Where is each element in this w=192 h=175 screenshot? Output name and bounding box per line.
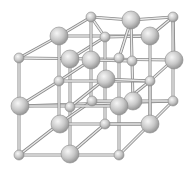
crystal-lattice-diagram — [0, 0, 192, 175]
small-ion-sphere — [114, 53, 124, 63]
small-ion-sphere — [100, 32, 110, 42]
small-ion-sphere — [14, 53, 24, 63]
small-ion-sphere — [127, 56, 137, 66]
lattice-canvas — [0, 0, 192, 175]
large-ion-sphere — [122, 11, 140, 29]
large-ion-sphere — [97, 70, 115, 88]
small-ion-sphere — [145, 76, 155, 86]
large-ion-sphere — [11, 97, 29, 115]
small-ion-sphere — [86, 12, 96, 22]
large-ion-sphere — [82, 51, 100, 69]
large-ion-sphere — [61, 50, 79, 68]
small-ion-sphere — [168, 96, 178, 106]
small-ion-sphere — [14, 150, 24, 160]
large-ion-sphere — [141, 27, 159, 45]
small-ion-sphere — [114, 150, 124, 160]
large-ion-sphere — [51, 115, 69, 133]
large-ion-sphere — [50, 27, 68, 45]
small-ion-sphere — [65, 102, 75, 112]
small-ion-sphere — [87, 96, 97, 106]
small-ion-sphere — [100, 119, 110, 129]
large-ion-sphere — [61, 145, 79, 163]
large-ion-sphere — [110, 97, 128, 115]
small-ion-sphere — [168, 12, 178, 22]
large-ion-sphere — [141, 115, 159, 133]
large-ion-sphere — [165, 51, 183, 69]
small-ion-sphere — [54, 76, 64, 86]
